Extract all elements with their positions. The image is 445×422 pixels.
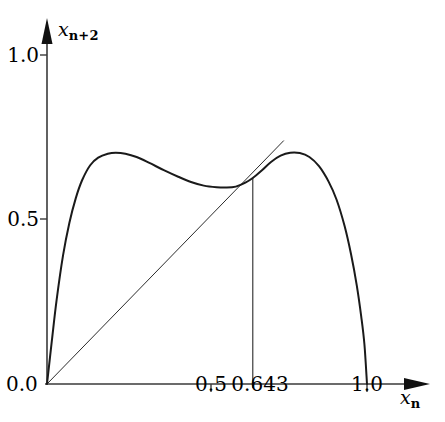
- second-iterate-curve: [47, 152, 367, 384]
- origin-tick-label: 0.0: [6, 374, 38, 394]
- x-axis-label-subscript: n: [411, 396, 421, 411]
- x-axis-label-base: x: [400, 386, 411, 408]
- y-tick-label-0-5: 0.5: [7, 209, 39, 229]
- x-tick-label-0-643: 0.643: [222, 374, 298, 394]
- x-tick-label-1-0: 1.0: [340, 374, 394, 394]
- y-axis-label-base: x: [58, 18, 69, 40]
- y-axis-label-subscript: n+2: [69, 28, 99, 43]
- y-axis-arrow-icon: [42, 18, 53, 44]
- x-axis-label: xn: [400, 388, 420, 410]
- chart-figure: 1.0 0.5 0.0 0.5 0.643 1.0 xn+2 xn: [0, 0, 445, 422]
- y-axis-label: xn+2: [58, 20, 99, 42]
- plot-canvas: [0, 0, 445, 422]
- y-tick-label-1-0: 1.0: [7, 45, 39, 65]
